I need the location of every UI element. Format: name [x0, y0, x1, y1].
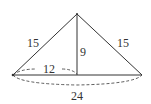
left-side-label: 15 — [27, 36, 39, 50]
right-side-label: 15 — [117, 36, 129, 50]
right-side — [77, 14, 142, 75]
apex-point — [76, 13, 78, 15]
altitude-label: 9 — [80, 45, 86, 59]
base-brace — [13, 75, 142, 85]
triangle-diagram: 15 15 9 12 24 — [0, 0, 151, 104]
half-base-label: 12 — [43, 62, 55, 76]
base-label: 24 — [71, 89, 83, 103]
